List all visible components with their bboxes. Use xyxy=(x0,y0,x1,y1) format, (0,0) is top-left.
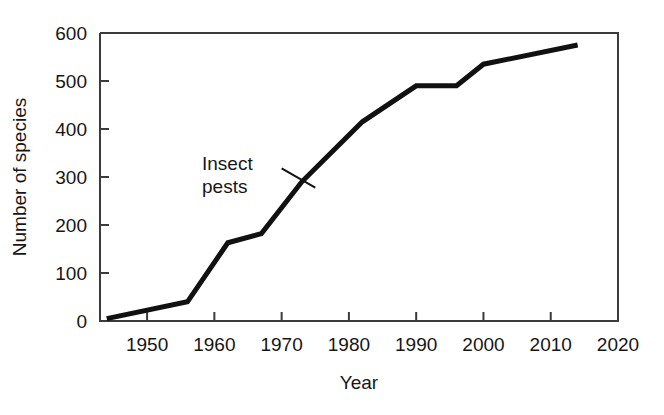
x-tick-label: 2010 xyxy=(530,334,572,355)
x-tick-label: 1970 xyxy=(260,334,302,355)
line-chart: 0100200300400500600 19501960197019801990… xyxy=(0,0,664,415)
annotation-label-line-2: pests xyxy=(202,176,247,197)
y-tick-label: 300 xyxy=(55,167,87,188)
y-tick-label: 0 xyxy=(76,311,87,332)
x-tick-label: 2020 xyxy=(597,334,639,355)
y-axis-title: Number of species xyxy=(9,98,30,256)
y-tick-label: 500 xyxy=(55,71,87,92)
y-tick-label: 600 xyxy=(55,23,87,44)
y-tick-label: 100 xyxy=(55,263,87,284)
x-axis-tick-labels: 19501960197019801990200020102020 xyxy=(126,334,639,355)
x-tick-label: 1980 xyxy=(328,334,370,355)
x-tick-label: 1990 xyxy=(395,334,437,355)
x-axis-ticks xyxy=(147,312,551,321)
plot-frame xyxy=(100,33,618,321)
y-axis-ticks xyxy=(100,81,109,273)
x-tick-label: 1950 xyxy=(126,334,168,355)
y-axis-tick-labels: 0100200300400500600 xyxy=(55,23,87,332)
data-series-insect-pests xyxy=(107,45,578,319)
x-tick-label: 2000 xyxy=(462,334,504,355)
y-tick-label: 400 xyxy=(55,119,87,140)
annotation-label-line-1: Insect xyxy=(202,153,253,174)
y-tick-label: 200 xyxy=(55,215,87,236)
chart-figure: 0100200300400500600 19501960197019801990… xyxy=(0,0,664,415)
x-axis-title: Year xyxy=(340,372,379,393)
x-tick-label: 1960 xyxy=(193,334,235,355)
